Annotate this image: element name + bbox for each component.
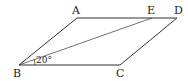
segment-dc — [120, 18, 177, 65]
label-a: A — [71, 4, 81, 17]
angle-label: 20° — [36, 55, 52, 65]
label-d: D — [174, 4, 183, 17]
parallelogram-diagram: A E D B C 20° — [0, 0, 188, 81]
label-e: E — [147, 4, 155, 17]
label-c: C — [116, 67, 124, 80]
angle-arc — [34, 60, 35, 66]
label-b: B — [13, 67, 21, 80]
